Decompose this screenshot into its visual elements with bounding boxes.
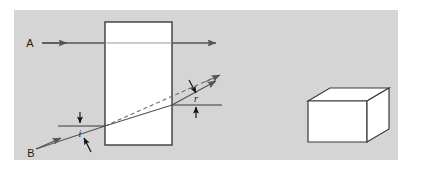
figure-container: A B i r	[0, 0, 428, 179]
glass-block-3d	[308, 88, 389, 142]
glass-slab-side-view	[105, 22, 172, 145]
ray-a-label: A	[26, 37, 34, 49]
block-3d-front-face	[308, 101, 367, 142]
angle-r-label: r	[194, 93, 198, 104]
refraction-diagram: A B i r	[0, 0, 428, 179]
angle-i-label: i	[79, 128, 82, 139]
ray-b-label: B	[27, 147, 34, 159]
